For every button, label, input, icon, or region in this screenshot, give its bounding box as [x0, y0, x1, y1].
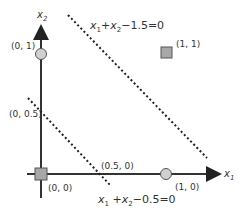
label-point-0-0: (0, 0)	[48, 184, 72, 193]
point-circle-0-1	[36, 49, 47, 60]
y-axis-label: x2	[37, 10, 47, 23]
point-square-0-0	[35, 168, 47, 180]
point-square-1-1	[161, 47, 172, 58]
decision-line-upper	[68, 15, 207, 158]
equation-upper: x1+x2−1.5=0	[90, 20, 164, 34]
label-intercept-y: (0, 0.5)	[9, 110, 42, 119]
label-intercept-x: (0.5, 0)	[101, 162, 134, 171]
point-circle-1-0	[161, 169, 172, 180]
label-point-0-1: (0, 1)	[11, 42, 35, 51]
equation-lower: x1 +x2−0.5=0	[98, 194, 176, 208]
label-point-1-1: (1, 1)	[176, 40, 200, 49]
label-point-1-0: (1, 0)	[175, 183, 199, 192]
x-axis-label: x1	[224, 169, 234, 182]
